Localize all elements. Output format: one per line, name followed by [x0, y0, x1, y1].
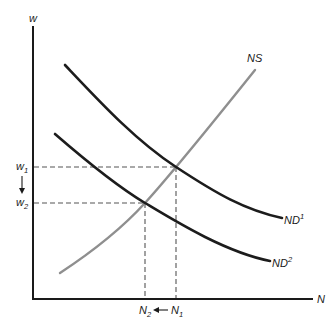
n1-label-base: N [171, 304, 179, 316]
w2-label: w2 [16, 196, 29, 211]
labor-demand-label-2: ND2 [272, 255, 293, 269]
w1-label: w1 [16, 160, 28, 175]
labor-demand-label-1-sup: 1 [300, 212, 304, 221]
w2-label-sub: 2 [23, 202, 29, 211]
employment-left-arrow-icon [153, 307, 159, 313]
guide-lines [34, 167, 176, 298]
labor-demand-label-1-base: ND [284, 214, 300, 226]
w1-label-sub: 1 [24, 166, 28, 175]
wage-down-arrow-icon [19, 188, 25, 194]
n1-label-sub: 1 [179, 310, 183, 319]
labor-market-diagram: w N NS ND1 ND2 w1 w2 N2 [0, 0, 336, 326]
labor-demand-label-1: ND1 [284, 212, 304, 226]
labor-demand-curve-1 [65, 65, 282, 218]
n1-label: N1 [171, 304, 183, 319]
n2-label-base: N [139, 304, 147, 316]
n2-label: N2 [139, 304, 152, 319]
y-axis-label: w [29, 12, 38, 24]
x-axis-label: N [317, 293, 325, 305]
labor-demand-label-2-base: ND [272, 257, 288, 269]
wage-labels: w1 w2 [16, 160, 29, 211]
n2-label-sub: 2 [146, 310, 152, 319]
labor-supply-label: NS [247, 52, 263, 64]
employment-labels: N2 N1 [139, 304, 183, 319]
labor-demand-curve-2 [55, 134, 270, 261]
labor-demand-label-2-sup: 2 [287, 255, 293, 264]
labor-supply-curve [60, 70, 255, 273]
